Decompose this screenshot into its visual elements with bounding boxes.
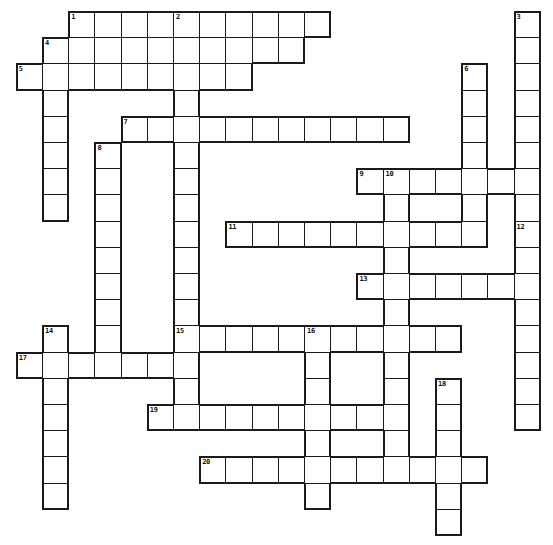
crossword-cell[interactable] <box>199 404 226 431</box>
crossword-cell[interactable] <box>514 194 541 221</box>
crossword-cell[interactable] <box>514 221 541 248</box>
crossword-cell[interactable] <box>461 142 488 169</box>
crossword-cell[interactable] <box>356 404 383 431</box>
crossword-cell[interactable] <box>514 273 541 300</box>
crossword-cell[interactable] <box>252 116 279 143</box>
crossword-cell[interactable] <box>304 483 331 510</box>
crossword-cell[interactable] <box>304 404 331 431</box>
crossword-cell[interactable] <box>121 116 148 143</box>
crossword-cell[interactable] <box>356 168 383 195</box>
crossword-cell[interactable] <box>304 352 331 379</box>
crossword-cell[interactable] <box>278 325 305 352</box>
crossword-cell[interactable] <box>147 11 174 38</box>
crossword-cell[interactable] <box>409 456 436 483</box>
crossword-cell[interactable] <box>121 37 148 64</box>
crossword-cell[interactable] <box>435 221 462 248</box>
crossword-cell[interactable] <box>435 273 462 300</box>
crossword-cell[interactable] <box>356 116 383 143</box>
crossword-cell[interactable] <box>383 168 410 195</box>
crossword-cell[interactable] <box>42 168 69 195</box>
crossword-cell[interactable] <box>68 352 95 379</box>
crossword-cell[interactable] <box>42 430 69 457</box>
crossword-cell[interactable] <box>173 90 200 117</box>
crossword-cell[interactable] <box>304 116 331 143</box>
crossword-cell[interactable] <box>173 378 200 405</box>
crossword-cell[interactable] <box>199 325 226 352</box>
crossword-cell[interactable] <box>147 116 174 143</box>
crossword-cell[interactable] <box>383 221 410 248</box>
crossword-cell[interactable] <box>461 168 488 195</box>
crossword-cell[interactable] <box>514 63 541 90</box>
crossword-cell[interactable] <box>173 352 200 379</box>
crossword-cell[interactable] <box>147 63 174 90</box>
crossword-cell[interactable] <box>461 90 488 117</box>
crossword-cell[interactable] <box>383 299 410 326</box>
crossword-cell[interactable] <box>147 352 174 379</box>
crossword-cell[interactable] <box>330 404 357 431</box>
crossword-cell[interactable] <box>514 378 541 405</box>
crossword-cell[interactable] <box>173 63 200 90</box>
crossword-cell[interactable] <box>383 194 410 221</box>
crossword-cell[interactable] <box>435 430 462 457</box>
crossword-cell[interactable] <box>435 404 462 431</box>
crossword-cell[interactable] <box>330 456 357 483</box>
crossword-cell[interactable] <box>225 116 252 143</box>
crossword-cell[interactable] <box>42 194 69 221</box>
crossword-cell[interactable] <box>42 456 69 483</box>
crossword-cell[interactable] <box>409 168 436 195</box>
crossword-cell[interactable] <box>42 404 69 431</box>
crossword-cell[interactable] <box>173 273 200 300</box>
crossword-cell[interactable] <box>121 352 148 379</box>
crossword-cell[interactable] <box>173 247 200 274</box>
crossword-cell[interactable] <box>173 37 200 64</box>
crossword-cell[interactable] <box>252 456 279 483</box>
crossword-cell[interactable] <box>94 221 121 248</box>
crossword-cell[interactable] <box>225 325 252 352</box>
crossword-cell[interactable] <box>435 378 462 405</box>
crossword-grid[interactable]: 1234567891011121314151617181920 <box>0 0 553 545</box>
crossword-cell[interactable] <box>252 11 279 38</box>
crossword-cell[interactable] <box>278 404 305 431</box>
crossword-cell[interactable] <box>278 37 305 64</box>
crossword-cell[interactable] <box>42 63 69 90</box>
crossword-cell[interactable] <box>383 247 410 274</box>
crossword-cell[interactable] <box>304 325 331 352</box>
crossword-cell[interactable] <box>304 221 331 248</box>
crossword-cell[interactable] <box>121 11 148 38</box>
crossword-cell[interactable] <box>252 404 279 431</box>
crossword-cell[interactable] <box>278 11 305 38</box>
crossword-cell[interactable] <box>356 325 383 352</box>
crossword-cell[interactable] <box>94 63 121 90</box>
crossword-cell[interactable] <box>173 11 200 38</box>
crossword-cell[interactable] <box>42 325 69 352</box>
crossword-cell[interactable] <box>94 168 121 195</box>
crossword-cell[interactable] <box>94 325 121 352</box>
crossword-cell[interactable] <box>409 325 436 352</box>
crossword-cell[interactable] <box>383 116 410 143</box>
crossword-cell[interactable] <box>383 273 410 300</box>
crossword-cell[interactable] <box>304 378 331 405</box>
crossword-cell[interactable] <box>173 299 200 326</box>
crossword-cell[interactable] <box>147 37 174 64</box>
crossword-cell[interactable] <box>461 63 488 90</box>
crossword-cell[interactable] <box>225 456 252 483</box>
crossword-cell[interactable] <box>199 11 226 38</box>
crossword-cell[interactable] <box>514 352 541 379</box>
crossword-cell[interactable] <box>514 247 541 274</box>
crossword-cell[interactable] <box>225 221 252 248</box>
crossword-cell[interactable] <box>330 325 357 352</box>
crossword-cell[interactable] <box>173 194 200 221</box>
crossword-cell[interactable] <box>42 483 69 510</box>
crossword-cell[interactable] <box>199 456 226 483</box>
crossword-cell[interactable] <box>94 194 121 221</box>
crossword-cell[interactable] <box>199 63 226 90</box>
crossword-cell[interactable] <box>356 221 383 248</box>
crossword-cell[interactable] <box>487 273 514 300</box>
crossword-cell[interactable] <box>330 116 357 143</box>
crossword-cell[interactable] <box>304 456 331 483</box>
crossword-cell[interactable] <box>42 378 69 405</box>
crossword-cell[interactable] <box>461 116 488 143</box>
crossword-cell[interactable] <box>514 325 541 352</box>
crossword-cell[interactable] <box>42 116 69 143</box>
crossword-cell[interactable] <box>16 63 43 90</box>
